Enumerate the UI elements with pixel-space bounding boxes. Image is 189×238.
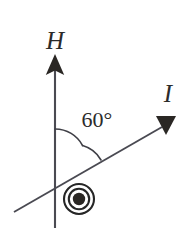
field-vector-label: H: [45, 27, 66, 54]
current-vector-arrowhead-icon: [156, 116, 176, 135]
current-out-of-page-dot-icon: [73, 193, 85, 205]
diagram-canvas: H I 60°: [0, 0, 189, 238]
angle-arc-tail: [83, 146, 101, 160]
current-vector-label: I: [163, 80, 174, 107]
angle-arc: [55, 129, 83, 146]
physics-vector-diagram: H I 60°: [0, 0, 189, 238]
current-vector-shaft: [14, 127, 162, 212]
angle-label: 60°: [82, 107, 113, 132]
